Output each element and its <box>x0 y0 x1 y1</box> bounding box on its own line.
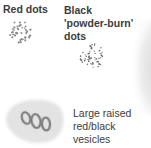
red-dot <box>20 38 22 40</box>
red-dot <box>20 32 22 34</box>
red-dot <box>14 22 16 24</box>
powder-burn-dot <box>94 51 95 52</box>
powder-burn-dot <box>87 64 89 66</box>
black-dots-label-line2: 'powder-burn' <box>64 17 133 30</box>
vesicles-label-line3: vesicles <box>73 133 131 146</box>
powder-burn-dot <box>87 53 89 55</box>
powder-burn-dot <box>94 45 95 46</box>
red-dot <box>9 34 11 36</box>
powder-burn-dot <box>97 66 99 68</box>
red-dot <box>29 29 31 31</box>
red-dot <box>16 26 18 28</box>
powder-burn-dot <box>93 63 94 64</box>
red-dot <box>28 37 30 39</box>
vesicles-illustration <box>6 100 63 143</box>
black-dots-label-line3: dots <box>64 30 133 43</box>
powder-burn-dot <box>88 60 90 62</box>
powder-burn-dot <box>100 47 101 48</box>
red-dot <box>24 22 26 24</box>
powder-burn-dot <box>81 61 83 63</box>
powder-burn-dot <box>94 53 95 54</box>
red-dot <box>11 36 13 38</box>
red-dot <box>13 29 15 31</box>
black-powder-burn-dots-cluster <box>80 43 103 68</box>
powder-burn-dot <box>96 61 98 63</box>
powder-burn-dot <box>90 63 91 64</box>
powder-burn-dot <box>96 59 97 60</box>
powder-burn-dot <box>94 57 95 58</box>
powder-burn-dot <box>94 43 96 45</box>
red-dot <box>12 33 14 35</box>
powder-burn-dot <box>101 51 102 52</box>
red-dot <box>12 31 14 33</box>
red-dot <box>24 39 26 41</box>
powder-burn-dot <box>88 56 90 58</box>
red-dot <box>25 29 27 31</box>
red-dot <box>14 34 16 36</box>
powder-burn-dot <box>91 44 93 46</box>
powder-burn-dot <box>92 66 93 67</box>
powder-burn-dot <box>90 57 91 58</box>
powder-burn-dot <box>90 45 92 47</box>
red-dot <box>26 31 28 33</box>
red-dot <box>20 41 22 43</box>
powder-burn-dot <box>82 52 83 53</box>
red-dot <box>19 21 21 23</box>
vesicle-skin-patch <box>6 100 63 143</box>
red-dot <box>18 41 20 43</box>
red-dot <box>18 25 20 27</box>
powder-burn-dot <box>84 58 86 60</box>
powder-burn-dot <box>81 59 83 61</box>
red-dots-cluster <box>9 21 31 43</box>
powder-burn-dot <box>101 55 102 56</box>
powder-burn-dot <box>100 53 101 54</box>
powder-burn-dot <box>84 60 86 62</box>
red-dot <box>21 27 23 29</box>
red-dot <box>25 26 27 28</box>
powder-burn-dot <box>98 63 100 65</box>
red-dot <box>13 26 15 28</box>
red-dot <box>24 36 26 38</box>
red-dot <box>15 32 17 34</box>
powder-burn-dot <box>85 54 86 55</box>
powder-burn-dot <box>91 63 93 65</box>
red-dot <box>24 27 26 29</box>
red-dots-label: Red dots <box>3 3 48 16</box>
powder-burn-dot <box>87 59 89 61</box>
vesicles-label-line2: red/black <box>73 120 131 133</box>
powder-burn-dot <box>95 60 96 61</box>
powder-burn-dot <box>99 50 100 51</box>
red-dot <box>17 28 19 30</box>
powder-burn-dot <box>100 57 101 58</box>
red-dot <box>29 34 31 36</box>
black-powder-burn-dots-label: Black 'powder-burn' dots <box>64 4 133 43</box>
powder-burn-dot <box>85 55 87 57</box>
powder-burn-dot <box>98 58 99 59</box>
vesicles-label-line1: Large raised <box>73 107 131 120</box>
vesicles-label: Large raised red/black vesicles <box>73 107 131 146</box>
black-dots-label-line1: Black <box>64 4 133 17</box>
powder-burn-dot <box>80 55 82 57</box>
powder-burn-dot <box>89 51 90 52</box>
